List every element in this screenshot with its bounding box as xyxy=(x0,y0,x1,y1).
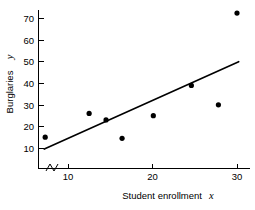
y-ticks-group xyxy=(39,19,44,149)
x-tick-label-20: 20 xyxy=(147,171,158,182)
y-tick-label-40: 40 xyxy=(23,78,34,89)
y-tick-label-20: 20 xyxy=(23,121,34,132)
y-axis-title-group: Burglaries y xyxy=(4,54,15,113)
axes-group xyxy=(39,10,251,169)
y-axis-title: Burglaries xyxy=(4,70,15,113)
x-axis-title-group: Student enrollment x xyxy=(122,190,214,201)
data-point xyxy=(119,136,124,141)
y-tick-label-30: 30 xyxy=(23,100,34,111)
y-tick-label-60: 60 xyxy=(23,35,34,46)
y-axis-title-variable: y xyxy=(4,54,15,60)
data-point xyxy=(234,11,239,16)
data-point xyxy=(216,102,221,107)
data-point xyxy=(189,83,194,88)
x-axis-title-variable: x xyxy=(208,190,214,201)
y-tick-label-50: 50 xyxy=(23,56,34,67)
x-tick-label-10: 10 xyxy=(63,171,74,182)
y-tick-label-10: 10 xyxy=(23,143,34,154)
y-tick-label-70: 70 xyxy=(23,13,34,24)
x-tick-label-30: 30 xyxy=(232,171,243,182)
scatter-plot-figure: 70 60 50 40 30 20 10 10 20 30 Burglaries… xyxy=(0,0,255,210)
x-ticks-group xyxy=(68,164,237,169)
x-axis-title: Student enrollment xyxy=(122,190,202,201)
data-point xyxy=(103,117,108,122)
data-points-group xyxy=(43,11,240,141)
x-tick-labels-group: 10 20 30 xyxy=(63,171,243,182)
data-point xyxy=(43,135,48,140)
y-tick-labels-group: 70 60 50 40 30 20 10 xyxy=(23,13,34,154)
data-point xyxy=(87,111,92,116)
chart-canvas: 70 60 50 40 30 20 10 10 20 30 Burglaries… xyxy=(0,0,255,210)
regression-line xyxy=(44,62,238,149)
x-axis-break-icon xyxy=(46,164,58,171)
axis-break-group xyxy=(46,164,58,171)
data-point xyxy=(151,113,156,118)
